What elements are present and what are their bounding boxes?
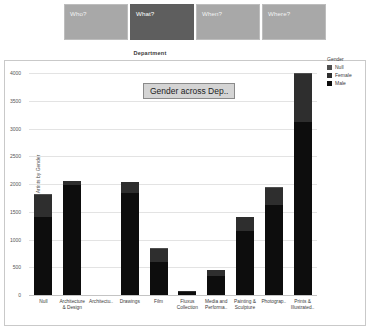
bar-painting-sculpture[interactable] (236, 73, 254, 295)
x-axis-tick-label: Film (144, 299, 173, 305)
bar-film[interactable] (150, 73, 168, 295)
legend-item-label: Null (335, 64, 344, 70)
bar-segment-female[interactable] (121, 182, 139, 193)
tab-what[interactable]: What? (130, 4, 194, 40)
bar-segment-female[interactable] (294, 74, 312, 122)
y-axis-tick-label: 2000 (0, 181, 21, 187)
bar-segment-male[interactable] (178, 292, 196, 295)
bar-segment-male[interactable] (63, 185, 81, 295)
legend-title: Gender (327, 56, 370, 62)
bar-series-group: NullArchitecture & DesignArchitectu..Dra… (29, 73, 317, 295)
legend-item-label: Female (335, 72, 352, 78)
legend-swatch-icon (327, 65, 332, 70)
bar-drawings[interactable] (121, 73, 139, 295)
bar-segment-male[interactable] (207, 276, 225, 295)
tab-what-label: What? (136, 10, 154, 17)
x-axis-tick-label: Prints & Illustrated.. (288, 299, 317, 311)
plot-area: Count of Artists by Gender 0500100015002… (29, 73, 317, 295)
bar-prints-illustrated[interactable] (294, 73, 312, 295)
x-axis-tick-label: Fluxus Collection (173, 299, 202, 311)
bar-null[interactable] (34, 73, 52, 295)
bar-media-and-performa[interactable] (207, 73, 225, 295)
bar-segment-male[interactable] (265, 205, 283, 295)
y-axis-tick-label: 1500 (0, 209, 21, 215)
x-axis-tick-label: Drawings (115, 299, 144, 305)
bar-segment-male[interactable] (150, 262, 168, 295)
gridline (29, 295, 317, 296)
panel-title: Department (0, 50, 300, 56)
bar-architectu[interactable] (92, 73, 110, 295)
bar-architecture-design[interactable] (63, 73, 81, 295)
x-axis-tick-label: Media and Performa.. (202, 299, 231, 311)
y-axis-tick-label: 2500 (0, 153, 21, 159)
x-axis-tick-label: Architectu.. (87, 299, 116, 305)
y-axis-tick-label: 3000 (0, 126, 21, 132)
y-axis-tick-label: 1000 (0, 237, 21, 243)
bar-segment-male[interactable] (121, 193, 139, 295)
tab-who[interactable]: Who? (64, 4, 128, 40)
legend-swatch-icon (327, 73, 332, 78)
bar-segment-female[interactable] (236, 217, 254, 231)
tab-where[interactable]: Where? (262, 4, 326, 40)
legend-item[interactable]: Male (327, 80, 370, 86)
bar-segment-male[interactable] (294, 122, 312, 295)
legend: Gender NullFemaleMale (327, 56, 370, 88)
legend-items: NullFemaleMale (327, 64, 370, 86)
bar-segment-male[interactable] (34, 217, 52, 295)
tab-strip: Who? What? When? Where? (64, 4, 326, 40)
y-axis-tick-label: 0 (0, 292, 21, 298)
legend-item-label: Male (335, 80, 346, 86)
bar-fluxus-collection[interactable] (178, 73, 196, 295)
legend-item[interactable]: Female (327, 72, 370, 78)
legend-item[interactable]: Null (327, 64, 370, 70)
tab-when-label: When? (202, 10, 222, 17)
tab-who-label: Who? (70, 10, 87, 17)
y-axis-tick-label: 4000 (0, 70, 21, 76)
x-axis-tick-label: Null (29, 299, 58, 305)
bar-segment-male[interactable] (236, 231, 254, 295)
legend-swatch-icon (327, 81, 332, 86)
bar-photograp[interactable] (265, 73, 283, 295)
chart-frame: Count of Artists by Gender 0500100015002… (4, 60, 366, 326)
chart-title-box[interactable]: Gender across Dep.. (143, 83, 235, 99)
bar-segment-female[interactable] (265, 188, 283, 205)
y-axis-tick-label: 3500 (0, 98, 21, 104)
x-axis-tick-label: Painting & Sculpture (231, 299, 260, 311)
bar-segment-female[interactable] (34, 195, 52, 217)
x-axis-tick-label: Architecture & Design (58, 299, 87, 311)
bar-segment-female[interactable] (150, 249, 168, 262)
x-axis-tick-label: Photograp.. (259, 299, 288, 305)
tab-where-label: Where? (268, 10, 290, 17)
tab-when[interactable]: When? (196, 4, 260, 40)
y-axis-tick-label: 500 (0, 264, 21, 270)
